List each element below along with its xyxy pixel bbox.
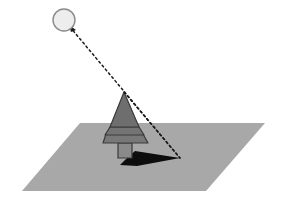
shadow-diagram-canvas: Shadow projection of a tree from a point…	[0, 0, 282, 204]
scene-illustration: Shadow projection of a tree from a point…	[0, 0, 282, 204]
tree-trunk	[118, 143, 132, 158]
light-source-sphere	[53, 9, 75, 31]
tree-tier-middle	[105, 127, 144, 135]
